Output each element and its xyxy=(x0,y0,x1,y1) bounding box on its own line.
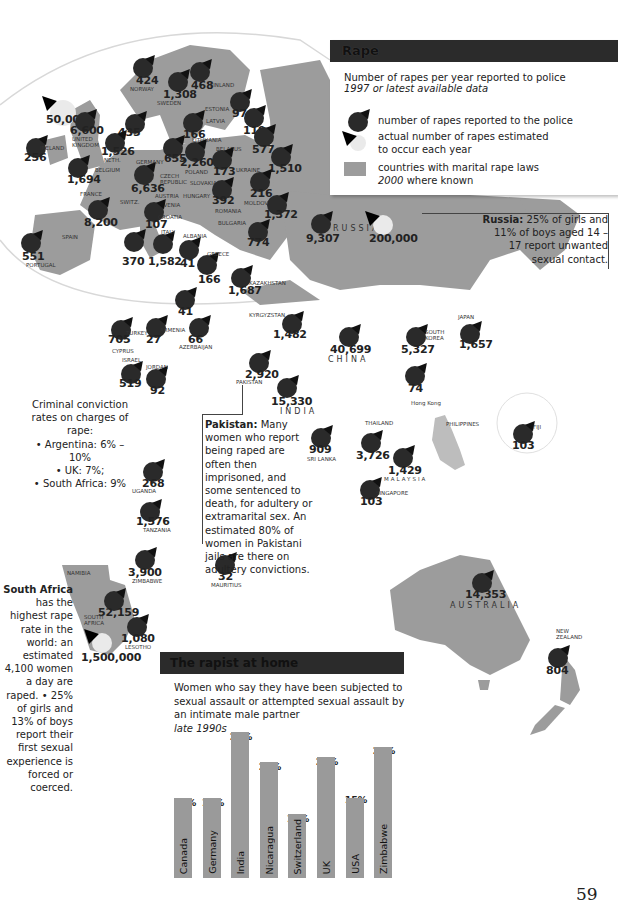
label-malaysia: Malaysia xyxy=(384,476,427,482)
value-belgium: 1,694 xyxy=(67,173,101,186)
value-australia: 14,353 xyxy=(465,588,506,601)
label-spain: Spain xyxy=(62,234,78,240)
bar-label-canada: Canada xyxy=(174,838,192,874)
value-kyrgyzstan: 1,482 xyxy=(273,328,307,341)
chart-title: The rapist at home xyxy=(160,652,404,674)
label-albania: Albania xyxy=(183,233,207,239)
legend-item-reported: number of rapes reported to the police xyxy=(378,114,573,127)
label-norway: Norway xyxy=(130,86,154,92)
label-lesotho: Lesotho xyxy=(125,644,151,650)
value-france: 8,200 xyxy=(84,216,118,229)
value-russia: 9,307 xyxy=(306,232,340,245)
label-germany: Germany xyxy=(136,159,164,165)
label-new-zealand: NEWZEALAND xyxy=(556,628,582,640)
value-hong-kong: 74 xyxy=(408,382,423,395)
bar-label-germany: Germany xyxy=(203,830,221,874)
note-russia: Russia: 25% of girls and 11% of boys age… xyxy=(480,213,608,266)
label-singapore: Singapore xyxy=(376,490,408,496)
marker-italy xyxy=(153,234,173,254)
label-switzerland: Switz. xyxy=(120,199,139,205)
bar-chart: 15% Canada 15% Germany 28% India 22% Nic… xyxy=(170,720,410,910)
bar-uk: UK xyxy=(317,757,335,878)
pakistan-leader-line xyxy=(202,414,203,544)
label-italy: Italy xyxy=(161,229,175,235)
label-hong-kong: Hong Kong xyxy=(411,400,441,406)
label-tanzania: Tanzania xyxy=(143,527,171,533)
label-india: India xyxy=(280,407,317,416)
value-hungary: 392 xyxy=(212,194,234,207)
label-turkey: Turkey xyxy=(126,330,148,336)
label-thailand: Thailand xyxy=(365,420,393,426)
label-pakistan: Pakistan xyxy=(236,379,262,385)
value-japan: 1,657 xyxy=(459,338,493,351)
label-south-korea: SOUTHKOREA xyxy=(425,329,444,341)
bar-label-uk: UK xyxy=(317,861,335,874)
label-uk: UNITEDKINGDOM xyxy=(72,136,99,148)
label-china: China xyxy=(328,355,368,364)
bar-label-switzerland: Switzerland xyxy=(288,819,306,874)
estimate-value-russia: 200,000 xyxy=(369,232,418,245)
label-latvia: Latvia xyxy=(206,118,225,124)
bar-canada: Canada xyxy=(174,798,192,878)
bar-usa: USA xyxy=(346,798,364,878)
bar-label-nicaragua: Nicaragua xyxy=(260,826,278,874)
label-philippines: Philippines xyxy=(446,421,479,427)
value-south-korea: 5,327 xyxy=(401,343,435,356)
russia-leader-line xyxy=(422,213,608,214)
value-ireland: 256 xyxy=(24,151,46,164)
note-conviction-rates: Criminal conviction rates on charges of … xyxy=(30,398,130,490)
label-finland: Finland xyxy=(210,82,234,88)
legend-item-marital-law: countries with marital rape laws 2000 wh… xyxy=(378,161,539,187)
label-hungary: Hungary xyxy=(183,193,210,199)
label-romania: Romania xyxy=(215,208,241,214)
estimated-marker-icon xyxy=(350,135,366,151)
label-cyprus: Cyprus xyxy=(112,348,134,354)
pakistan-leader-line-h xyxy=(202,414,243,415)
label-belgium: Belgium xyxy=(95,167,120,173)
bar-label-india: India xyxy=(231,851,249,874)
label-uganda: Uganda xyxy=(132,488,156,494)
legend-subtitle: Number of rapes per year reported to pol… xyxy=(344,72,618,94)
bar-label-usa: USA xyxy=(346,854,364,874)
pakistan-leader-line-v2 xyxy=(242,385,243,415)
value-italy: 1,582 xyxy=(148,255,182,268)
value-switzerland: 370 xyxy=(122,255,144,268)
label-kyrgyzstan: Kyrgyzstan xyxy=(249,312,285,318)
bar-zimbabwe: Zimbabwe xyxy=(374,747,392,878)
value-georgia: 41 xyxy=(178,305,193,318)
bar-nicaragua: Nicaragua xyxy=(260,762,278,878)
value-bulgaria: 774 xyxy=(247,236,269,249)
label-azerbaijan: Azerbaijan xyxy=(179,344,212,350)
marker-switzerland xyxy=(124,232,144,252)
marker-russia xyxy=(311,214,331,234)
note-south-africa: South Africa has the highest rape rate i… xyxy=(0,583,73,794)
russia-leader-line-v xyxy=(608,213,609,269)
legend-item-estimated: actual number of rapes estimated to occu… xyxy=(378,130,548,156)
label-netherlands: Neth. xyxy=(104,157,121,163)
value-thailand: 3,726 xyxy=(356,449,390,462)
label-namibia: Namibia xyxy=(67,570,90,576)
label-czech-republic: CZECHREPUBLIC xyxy=(160,173,187,185)
legend-title: Rape xyxy=(330,40,618,62)
label-sweden: Sweden xyxy=(157,100,181,106)
bar-label-zimbabwe: Zimbabwe xyxy=(374,824,392,874)
estimate-value-south-africa: 1,500,000 xyxy=(81,651,141,664)
reported-marker-icon xyxy=(348,112,368,132)
bar-germany: Germany xyxy=(203,798,221,878)
label-zimbabwe: Zimbabwe xyxy=(132,578,162,584)
label-australia: Australia xyxy=(450,601,521,610)
bar-switzerland: Switzerland xyxy=(288,814,306,878)
note-pakistan: Pakistan: Many women who report being ra… xyxy=(205,418,313,576)
value-albania: 41 xyxy=(180,257,195,270)
legend-box: Rape Number of rapes per year reported t… xyxy=(330,40,618,195)
grey-swatch-icon xyxy=(344,162,366,176)
page-number: 59 xyxy=(576,884,598,904)
label-greece: Greece xyxy=(207,251,229,257)
value-fiji: 103 xyxy=(512,439,534,452)
marker-greece xyxy=(197,255,217,275)
bar-india: India xyxy=(231,732,249,878)
label-kazakhstan: Kazakhstan xyxy=(249,280,286,286)
label-poland: Poland xyxy=(185,169,208,175)
label-portugal: Portugal xyxy=(26,262,56,268)
value-jordan: 92 xyxy=(150,384,165,397)
